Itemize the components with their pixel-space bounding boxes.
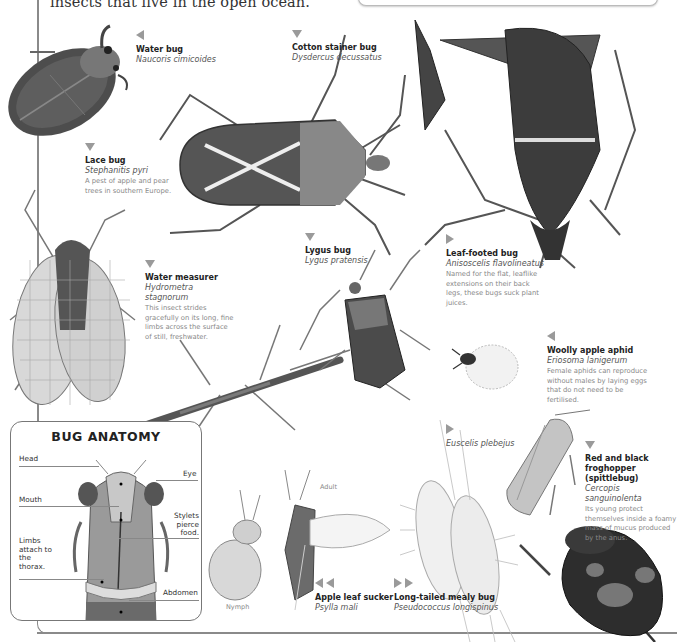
anatomy-label-stylets: Stylets pierce food. xyxy=(169,512,199,538)
species-label-lace-bug: Lace bug Stephanitis pyri A pest of appl… xyxy=(85,143,175,196)
latin-name: Cercopis sanguinolenta xyxy=(585,484,677,504)
leader-line xyxy=(129,600,199,601)
lygus-bug-illustration xyxy=(300,250,440,400)
species-label-water-measurer: Water measurer Hydrometra stagnorum This… xyxy=(145,260,235,342)
anatomy-title: BUG ANATOMY xyxy=(11,429,201,444)
pointer-double-left-icon xyxy=(315,578,393,588)
latin-name: Hydrometra stagnorum xyxy=(145,283,235,303)
latin-name: Naucoris cimicoides xyxy=(136,55,216,65)
common-name: Cotton stainer bug xyxy=(292,43,382,53)
latin-name: Stephanitis pyri xyxy=(85,166,175,176)
anatomy-label-mouth: Mouth xyxy=(19,496,42,505)
description: Female aphids can reproduce without male… xyxy=(547,367,657,405)
common-name: Apple leaf sucker xyxy=(315,593,393,603)
anatomy-illustration xyxy=(66,452,176,621)
description: Named for the flat, leaflike extensions … xyxy=(446,270,546,308)
pointer-right-icon xyxy=(446,234,454,244)
latin-name: Eriosoma lanigerum xyxy=(547,356,657,366)
water-bug-illustration xyxy=(0,20,140,140)
latin-name: Lygus pratensis xyxy=(305,256,368,266)
woolly-apple-aphid-illustration xyxy=(450,335,520,395)
leader-line xyxy=(119,538,199,539)
anatomy-label-limbs: Limbs attach to the thorax. xyxy=(19,537,53,571)
stage-label-adult: Adult xyxy=(320,483,337,491)
bug-anatomy-panel: BUG ANATOMY Head Eye Mouth Stylets pierc… xyxy=(10,421,202,621)
common-name: Water measurer xyxy=(145,273,235,283)
pointer-right-icon xyxy=(446,424,454,434)
stage-label-nymph: Nymph xyxy=(226,603,249,611)
description: Its young protect themselves inside a fo… xyxy=(585,505,677,543)
intro-text: insects that live in the open ocean. xyxy=(50,0,310,10)
species-label-woolly-apple-aphid: Woolly apple aphid Eriosoma lanigerum Fe… xyxy=(547,331,657,405)
top-callout-box xyxy=(358,0,658,6)
latin-name: Dysdercus decussatus xyxy=(292,53,382,63)
species-label-leaf-footed-bug: Leaf-footed bug Anisoscelis flavolineatu… xyxy=(446,234,546,308)
description: A pest of apple and pear trees in southe… xyxy=(85,177,175,196)
leader-line xyxy=(156,480,198,481)
common-name: Water bug xyxy=(136,45,216,55)
common-name: Lace bug xyxy=(85,156,175,166)
pointer-down-icon xyxy=(305,233,315,241)
common-name: Woolly apple aphid xyxy=(547,346,657,356)
species-label-water-bug: Water bug Naucoris cimicoides xyxy=(136,30,216,65)
species-label-euscelis: Euscelis plebejus xyxy=(446,424,514,449)
latin-name: Pseudococcus longispinus xyxy=(394,603,498,613)
species-label-apple-leaf-sucker: Apple leaf sucker Psylla mali xyxy=(315,578,393,613)
pointer-down-icon xyxy=(292,30,302,38)
leaf-footed-bug-illustration xyxy=(405,10,645,270)
leader-line xyxy=(19,506,119,507)
description: This insect strides gracefully on its lo… xyxy=(145,304,235,342)
pointer-left-icon xyxy=(136,30,144,40)
species-label-mealy-bug: Long-tailed mealy bug Pseudococcus longi… xyxy=(394,578,498,613)
anatomy-label-abdomen: Abdomen xyxy=(163,589,198,598)
common-name: Red and black froghopper (spittlebug) xyxy=(585,454,677,484)
anatomy-label-eye: Eye xyxy=(183,470,196,479)
species-label-lygus-bug: Lygus bug Lygus pratensis xyxy=(305,233,368,266)
pointer-down-icon xyxy=(145,260,155,268)
common-name: Lygus bug xyxy=(305,246,368,256)
common-name: Leaf-footed bug xyxy=(446,249,546,259)
leader-line xyxy=(19,466,99,467)
species-label-cotton-stainer: Cotton stainer bug Dysdercus decussatus xyxy=(292,30,382,63)
latin-name: Euscelis plebejus xyxy=(446,439,514,449)
anatomy-label-head: Head xyxy=(19,455,38,464)
latin-name: Anisoscelis flavolineatus xyxy=(446,259,546,269)
pointer-down-icon xyxy=(85,143,95,151)
pointer-double-right-icon xyxy=(394,578,498,588)
species-label-froghopper: Red and black froghopper (spittlebug) Ce… xyxy=(585,441,677,543)
common-name: Long-tailed mealy bug xyxy=(394,593,498,603)
cotton-stainer-illustration xyxy=(150,55,410,255)
pointer-down-icon xyxy=(585,441,595,449)
pointer-left-icon xyxy=(547,331,555,341)
latin-name: Psylla mali xyxy=(315,603,393,613)
leader-line xyxy=(19,579,104,580)
